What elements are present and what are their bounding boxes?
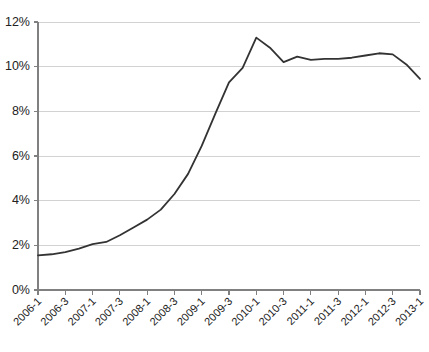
x-axis-tick-label: 2012-3 xyxy=(365,295,398,328)
data-series xyxy=(38,38,420,256)
y-axis-tick-label: 0% xyxy=(12,283,30,297)
x-axis-labels: 2006-12006-32007-12007-32008-12008-32009… xyxy=(11,295,426,328)
x-axis-tick-label: 2009-3 xyxy=(202,295,235,328)
x-axis-tick-label: 2008-1 xyxy=(120,295,153,328)
y-axis-tick-label: 12% xyxy=(5,15,30,29)
line-chart: 0%2%4%6%8%10%12% 2006-12006-32007-12007-… xyxy=(0,0,429,352)
x-axis-tick-label: 2012-1 xyxy=(338,295,371,328)
x-axis-tick-label: 2010-1 xyxy=(229,295,262,328)
x-axis-tick-label: 2010-3 xyxy=(256,295,289,328)
y-axis-tick-label: 8% xyxy=(12,104,30,118)
x-axis-tick-label: 2013-1 xyxy=(393,295,426,328)
x-axis-tick-label: 2011-3 xyxy=(311,295,343,327)
y-axis-tick-label: 10% xyxy=(5,59,30,73)
x-axis-tick-label: 2007-3 xyxy=(93,295,126,328)
x-axis-tick-label: 2007-1 xyxy=(65,295,98,328)
x-axis-tick-label: 2008-3 xyxy=(147,295,180,328)
y-axis-tick-label: 6% xyxy=(12,149,30,163)
x-axis-tick-marks xyxy=(38,290,420,295)
x-axis-tick-label: 2006-3 xyxy=(38,295,71,328)
x-axis-tick-label: 2011-1 xyxy=(284,295,316,327)
x-axis-tick-label: 2006-1 xyxy=(11,295,44,328)
x-axis-tick-label: 2009-1 xyxy=(174,295,207,328)
chart-canvas: 0%2%4%6%8%10%12% 2006-12006-32007-12007-… xyxy=(0,0,429,352)
series-line xyxy=(38,38,420,256)
y-axis-tick-label: 4% xyxy=(12,193,30,207)
y-axis-labels: 0%2%4%6%8%10%12% xyxy=(5,15,30,297)
y-axis-tick-label: 2% xyxy=(12,238,30,252)
